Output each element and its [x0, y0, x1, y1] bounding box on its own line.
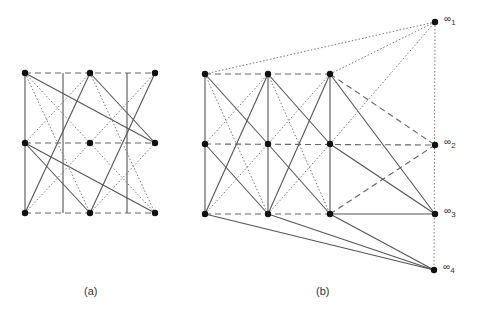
edge-solid	[268, 214, 434, 270]
panel-a-graph	[22, 70, 158, 216]
edge-dotted	[205, 22, 435, 74]
vertex	[265, 71, 271, 77]
edge-solid	[330, 214, 434, 270]
vertex	[152, 140, 158, 146]
vertex	[202, 211, 208, 217]
vertex	[152, 70, 158, 76]
vertex	[22, 210, 28, 216]
vertex	[202, 141, 208, 147]
panel-b-graph	[202, 19, 438, 273]
vertex	[202, 71, 208, 77]
vertex	[327, 141, 333, 147]
caption-b: (b)	[316, 285, 329, 297]
edge-solid	[330, 144, 435, 214]
vertex	[87, 210, 93, 216]
infinity-label-3: ∞3	[444, 205, 456, 219]
vertex	[152, 210, 158, 216]
caption-a: (a)	[84, 285, 97, 297]
infinity-label-2: ∞2	[444, 136, 456, 150]
edge-solid	[25, 143, 155, 213]
figure-canvas	[0, 0, 481, 312]
edge-solid	[330, 74, 435, 214]
infinity-label-1: ∞1	[444, 13, 456, 27]
infinity-vertex-2	[432, 142, 438, 148]
vertex	[265, 141, 271, 147]
vertex	[87, 140, 93, 146]
edge-dashed	[205, 144, 435, 145]
infinity-vertex-3	[432, 211, 438, 217]
infinity-label-4: ∞4	[443, 261, 455, 275]
vertex	[22, 70, 28, 76]
vertex	[265, 211, 271, 217]
vertex	[87, 70, 93, 76]
edge-dotted	[330, 22, 435, 144]
edge-solid	[25, 73, 155, 143]
vertex	[22, 140, 28, 146]
edge-dotted	[330, 22, 435, 74]
vertex	[327, 211, 333, 217]
edge-dashed	[330, 74, 435, 145]
vertex	[327, 71, 333, 77]
edge-solid	[205, 214, 434, 270]
infinity-vertex-4	[431, 267, 437, 273]
infinity-vertex-1	[432, 19, 438, 25]
